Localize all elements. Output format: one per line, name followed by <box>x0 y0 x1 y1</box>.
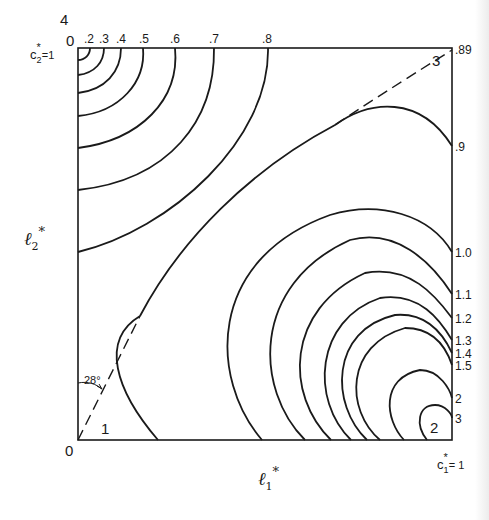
contour-label-right: 1.3 <box>455 335 472 347</box>
c1-equals-1-label: c1*= 1 <box>437 454 464 476</box>
contour-label-right: 2 <box>455 393 462 405</box>
contour-label-right: 1.2 <box>455 313 472 325</box>
corner-value-4: 4 <box>60 12 68 27</box>
region-label-1: 1 <box>101 421 109 436</box>
dashed-boundary-line <box>78 50 452 440</box>
contour-label-top: .2 <box>84 33 94 45</box>
contour-label-top: .8 <box>262 33 272 45</box>
contour-label-right: 1.5 <box>455 360 472 372</box>
contour-label-top: .5 <box>139 33 149 45</box>
contour-diagram <box>0 0 489 520</box>
c2-equals-1-label: c2*=1 <box>30 44 54 66</box>
corner-value-0-top: 0 <box>66 33 74 48</box>
angle-label: 28° <box>84 374 101 386</box>
region-label-2: 2 <box>430 420 438 435</box>
region-label-3: 3 <box>432 53 440 68</box>
origin-label: 0 <box>65 443 73 458</box>
contour-label-top: .6 <box>170 33 180 45</box>
contour-label-right: 1.1 <box>455 289 472 301</box>
contour-label-top: .3 <box>99 33 109 45</box>
contour-label-right: .9 <box>455 141 465 153</box>
contour-label-right: 3 <box>455 413 462 425</box>
contour-label-corner-89: .89 <box>455 44 472 56</box>
contour-label-top: .7 <box>209 33 219 45</box>
y-axis-label: ℓ2* <box>24 226 45 253</box>
contour-label-top: .4 <box>116 33 126 45</box>
x-axis-label: ℓ1* <box>258 466 279 493</box>
scan-edge-shading <box>475 0 489 520</box>
contour-label-right: 1.0 <box>455 247 472 259</box>
contour-lines-upper-left <box>78 48 268 252</box>
